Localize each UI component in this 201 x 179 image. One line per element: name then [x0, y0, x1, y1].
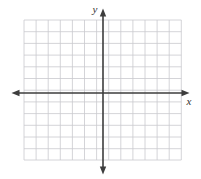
y-axis-label: y: [92, 3, 98, 15]
coordinate-plane-figure: y x: [0, 0, 201, 179]
coordinate-grid-svg: y x: [0, 0, 201, 179]
figure-background: [0, 0, 201, 179]
x-axis-label: x: [186, 95, 192, 107]
